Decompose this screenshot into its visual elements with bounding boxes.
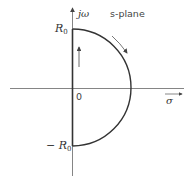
sigma-label: σ bbox=[166, 95, 174, 106]
neg-r0-label: − R0 bbox=[46, 139, 71, 153]
s-plane-title: s-plane bbox=[110, 8, 145, 19]
jw-label: jω bbox=[76, 8, 89, 19]
s-plane-diagram: jω s-plane R0 0 σ − R0 bbox=[0, 0, 194, 183]
clockwise-arrow-icon bbox=[112, 36, 127, 53]
r0-label: R0 bbox=[54, 22, 68, 36]
origin-label: 0 bbox=[76, 91, 82, 102]
